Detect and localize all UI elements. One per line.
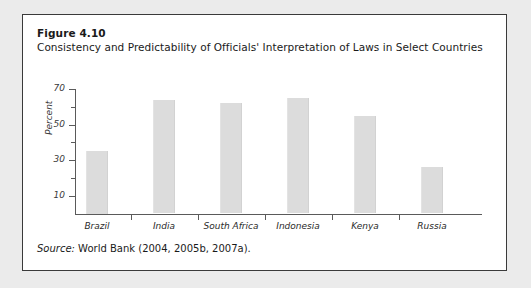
y-tick-minor-40 [71,142,75,143]
bar-indonesia [287,98,309,214]
x-tick-3 [332,215,333,220]
source-note: Source: World Bank (2004, 2005b, 2007a). [37,243,251,254]
y-tick-70 [69,89,75,90]
y-tick-30 [69,160,75,161]
source-text: World Bank (2004, 2005b, 2007a). [75,243,251,254]
y-tick-label-30: 30 [27,154,65,164]
y-tick-minor-60 [71,107,75,108]
figure-container: Figure 4.10 Consistency and Predictabili… [22,14,507,271]
y-tick-10 [69,196,75,197]
bar-india [153,100,175,214]
bar-brazil [86,151,108,213]
x-tick-2 [265,215,266,220]
page-background: Figure 4.10 Consistency and Predictabili… [0,0,531,288]
x-tick-4 [399,215,400,220]
y-tick-label-50: 50 [27,119,65,129]
y-tick-label-10: 10 [27,190,65,200]
bar-south-africa [220,103,242,213]
x-tick-1 [198,215,199,220]
x-axis-line [75,214,482,215]
bar-kenya [354,116,376,214]
y-tick-minor-20 [71,178,75,179]
y-axis-line [75,89,76,214]
source-label: Source: [37,243,75,254]
x-axis-label-russia: Russia [392,221,472,231]
bar-russia [421,167,443,213]
x-tick-0 [131,215,132,220]
y-tick-label-70: 70 [27,83,65,93]
y-tick-50 [69,125,75,126]
bar-chart: Percent 10305070 BrazilIndiaSouth Africa… [23,15,508,272]
